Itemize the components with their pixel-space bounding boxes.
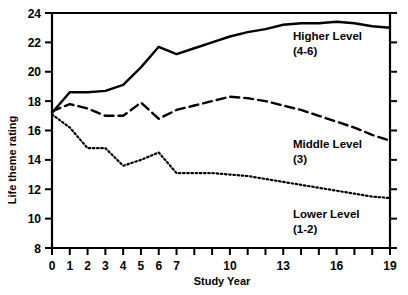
y-tick-label: 22 <box>28 36 42 50</box>
y-tick-label: 20 <box>28 65 42 79</box>
x-tick-label: 0 <box>49 259 56 273</box>
series-sublabel-lower: (1-2) <box>293 223 317 235</box>
y-tick-label: 24 <box>28 7 42 21</box>
y-tick-label: 8 <box>34 242 41 256</box>
y-tick-label: 16 <box>28 124 42 138</box>
x-tick-label: 6 <box>155 259 162 273</box>
y-tick-label: 12 <box>28 183 42 197</box>
series-label-higher: Higher Level <box>293 30 362 42</box>
x-tick-label: 2 <box>84 259 91 273</box>
x-tick-label: 19 <box>383 259 397 273</box>
x-tick-label: 4 <box>120 259 127 273</box>
series-label-middle: Middle Level <box>293 138 362 150</box>
y-tick-label: 18 <box>28 95 42 109</box>
x-axis-title: Study Year <box>194 275 251 287</box>
x-tick-label: 10 <box>223 259 237 273</box>
chart-figure: 81012141618202224 0123456710131619 Life … <box>0 0 408 295</box>
x-tick-label: 5 <box>138 259 145 273</box>
y-tick-label: 10 <box>28 212 42 226</box>
x-tick-label: 13 <box>277 259 291 273</box>
line-chart: 81012141618202224 0123456710131619 Life … <box>0 0 408 295</box>
x-tick-label: 16 <box>330 259 344 273</box>
y-axis-title: Life theme rating <box>6 116 18 205</box>
series-sublabel-higher: (4-6) <box>293 45 317 57</box>
y-tick-label: 14 <box>28 153 42 167</box>
x-tick-label: 1 <box>66 259 73 273</box>
x-tick-label: 7 <box>173 259 180 273</box>
x-tick-label: 3 <box>102 259 109 273</box>
series-label-lower: Lower Level <box>293 208 359 220</box>
series-sublabel-middle: (3) <box>293 153 307 165</box>
